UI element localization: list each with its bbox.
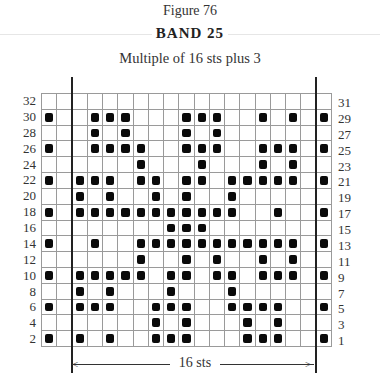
empty-stitch-cell	[118, 189, 133, 205]
empty-stitch-cell	[195, 268, 210, 284]
empty-stitch-cell	[225, 126, 240, 142]
row-label-left: 28	[18, 125, 36, 141]
empty-stitch-cell	[149, 284, 164, 300]
filled-stitch-cell	[103, 300, 118, 316]
filled-stitch-cell	[271, 205, 286, 221]
empty-stitch-cell	[210, 189, 225, 205]
row-label-left: 22	[18, 172, 36, 188]
filled-stitch-cell	[271, 236, 286, 252]
empty-stitch-cell	[210, 331, 225, 347]
empty-stitch-cell	[179, 94, 194, 110]
filled-stitch-cell	[134, 205, 149, 221]
filled-stitch-cell	[179, 315, 194, 331]
empty-stitch-cell	[271, 189, 286, 205]
row-label-right: 21	[338, 174, 351, 190]
row-label-right: 27	[338, 127, 351, 143]
row-label-left: 24	[18, 157, 36, 173]
filled-stitch-cell	[118, 268, 133, 284]
filled-stitch-cell	[42, 268, 57, 284]
filled-stitch-cell	[225, 300, 240, 316]
filled-stitch-cell	[195, 157, 210, 173]
row-label-right: 29	[338, 111, 351, 127]
empty-stitch-cell	[225, 331, 240, 347]
filled-stitch-cell	[271, 300, 286, 316]
row-label-right: 7	[338, 286, 345, 302]
empty-stitch-cell	[286, 205, 301, 221]
empty-stitch-cell	[210, 284, 225, 300]
filled-stitch-cell	[118, 110, 133, 126]
filled-stitch-cell	[42, 300, 57, 316]
empty-stitch-cell	[134, 189, 149, 205]
filled-stitch-cell	[256, 110, 271, 126]
filled-stitch-cell	[195, 141, 210, 157]
filled-stitch-cell	[179, 189, 194, 205]
empty-stitch-cell	[164, 141, 179, 157]
filled-stitch-cell	[103, 284, 118, 300]
empty-stitch-cell	[286, 284, 301, 300]
empty-stitch-cell	[286, 126, 301, 142]
filled-stitch-cell	[317, 268, 332, 284]
figure-label: Figure 76	[0, 3, 380, 19]
empty-stitch-cell	[164, 252, 179, 268]
empty-stitch-cell	[195, 331, 210, 347]
filled-stitch-cell	[256, 300, 271, 316]
chart-title: BAND 25	[0, 25, 380, 42]
empty-stitch-cell	[240, 221, 255, 237]
filled-stitch-cell	[164, 284, 179, 300]
empty-stitch-cell	[240, 94, 255, 110]
filled-stitch-cell	[225, 189, 240, 205]
empty-stitch-cell	[210, 94, 225, 110]
empty-stitch-cell	[210, 157, 225, 173]
empty-stitch-cell	[118, 221, 133, 237]
empty-stitch-cell	[73, 221, 88, 237]
filled-stitch-cell	[42, 236, 57, 252]
filled-stitch-cell	[179, 110, 194, 126]
empty-stitch-cell	[271, 252, 286, 268]
filled-stitch-cell	[317, 300, 332, 316]
filled-stitch-cell	[42, 141, 57, 157]
empty-stitch-cell	[317, 221, 332, 237]
filled-stitch-cell	[164, 205, 179, 221]
empty-stitch-cell	[103, 157, 118, 173]
filled-stitch-cell	[286, 236, 301, 252]
filled-stitch-cell	[256, 252, 271, 268]
filled-stitch-cell	[225, 268, 240, 284]
filled-stitch-cell	[179, 236, 194, 252]
filled-stitch-cell	[73, 268, 88, 284]
empty-stitch-cell	[164, 189, 179, 205]
empty-stitch-cell	[134, 110, 149, 126]
empty-stitch-cell	[240, 284, 255, 300]
empty-stitch-cell	[210, 173, 225, 189]
filled-stitch-cell	[256, 331, 271, 347]
filled-stitch-cell	[210, 236, 225, 252]
empty-stitch-cell	[256, 94, 271, 110]
filled-stitch-cell	[210, 252, 225, 268]
empty-stitch-cell	[317, 126, 332, 142]
filled-stitch-cell	[195, 205, 210, 221]
empty-stitch-cell	[73, 141, 88, 157]
empty-stitch-cell	[134, 221, 149, 237]
filled-stitch-cell	[42, 173, 57, 189]
filled-stitch-cell	[73, 173, 88, 189]
filled-stitch-cell	[195, 173, 210, 189]
row-label-right: 9	[338, 270, 345, 286]
row-label-left: 20	[18, 188, 36, 204]
filled-stitch-cell	[134, 236, 149, 252]
empty-stitch-cell	[73, 126, 88, 142]
filled-stitch-cell	[210, 141, 225, 157]
empty-stitch-cell	[317, 189, 332, 205]
row-label-left: 6	[18, 299, 36, 315]
filled-stitch-cell	[210, 268, 225, 284]
empty-stitch-cell	[134, 94, 149, 110]
empty-stitch-cell	[118, 94, 133, 110]
filled-stitch-cell	[88, 126, 103, 142]
empty-stitch-cell	[179, 157, 194, 173]
filled-stitch-cell	[256, 268, 271, 284]
filled-stitch-cell	[256, 173, 271, 189]
empty-stitch-cell	[149, 268, 164, 284]
filled-stitch-cell	[164, 221, 179, 237]
empty-stitch-cell	[271, 94, 286, 110]
empty-stitch-cell	[103, 315, 118, 331]
empty-stitch-cell	[271, 126, 286, 142]
empty-stitch-cell	[134, 331, 149, 347]
